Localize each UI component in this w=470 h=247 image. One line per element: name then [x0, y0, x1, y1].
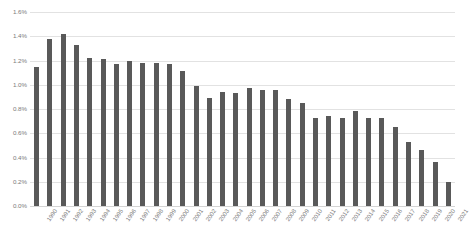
bar [220, 92, 225, 206]
bar [180, 71, 185, 206]
bar [353, 111, 358, 206]
bar [61, 34, 66, 206]
bar [247, 88, 252, 206]
bar [379, 118, 384, 207]
bar [340, 118, 345, 207]
x-axis-tick-label: 1996 [125, 208, 138, 222]
x-axis-tick-label: 1999 [165, 208, 178, 222]
y-axis-tick-label: 1.6% [0, 9, 27, 15]
x-axis-tick-label: 1990 [45, 208, 58, 222]
bar [366, 118, 371, 207]
bar [114, 64, 119, 206]
bar [74, 45, 79, 206]
x-axis-tick-label: 2017 [404, 208, 417, 222]
x-axis-tick-label: 2008 [284, 208, 297, 222]
x-axis-tick-label: 2012 [338, 208, 351, 222]
x-axis-tick-label: 2011 [324, 208, 336, 222]
bar [140, 63, 145, 206]
x-axis-tick-label: 1998 [152, 208, 165, 222]
y-axis-tick-label: 0.0% [0, 203, 27, 209]
x-axis-tick-label: 2015 [377, 208, 390, 222]
bar [167, 64, 172, 206]
x-axis-tick-label: 2005 [245, 208, 258, 222]
y-axis-tick-label: 0.6% [0, 130, 27, 136]
x-axis-tick-label: 1994 [98, 208, 111, 222]
x-axis-tick-label: 2000 [178, 208, 191, 222]
bar [326, 116, 331, 206]
y-axis-tick-label: 0.8% [0, 106, 27, 112]
x-axis-tick-label: 1993 [85, 208, 98, 222]
x-axis-tick-labels: 1990199119921993199419951996199719981999… [30, 208, 455, 247]
bar [446, 182, 451, 206]
x-axis-tick-label: 2020 [444, 208, 457, 222]
x-axis-tick-label: 2004 [231, 208, 244, 222]
x-axis-tick-label: 2016 [391, 208, 404, 222]
bar [300, 103, 305, 206]
bar [419, 150, 424, 206]
bar [393, 127, 398, 206]
bar [87, 58, 92, 206]
bar [260, 90, 265, 206]
x-axis-tick-label: 2010 [311, 208, 324, 222]
x-axis-tick-label: 2001 [191, 208, 204, 222]
bar [233, 93, 238, 206]
bar [286, 99, 291, 206]
y-axis-tick-label: 1.2% [0, 57, 27, 63]
y-axis-tick-label: 1.0% [0, 82, 27, 88]
x-axis-tick-label: 2021 [457, 208, 470, 222]
bar [47, 39, 52, 206]
bar [127, 61, 132, 207]
x-axis-tick-label: 2007 [271, 208, 284, 222]
y-axis-tick-label: 0.2% [0, 179, 27, 185]
bar [207, 98, 212, 206]
bar [313, 118, 318, 207]
bar [433, 162, 438, 206]
bar [194, 86, 199, 206]
bar [406, 142, 411, 206]
x-axis-tick-label: 1992 [72, 208, 85, 222]
bar [273, 90, 278, 206]
x-axis-tick-label: 2003 [218, 208, 231, 222]
bar [101, 59, 106, 206]
x-axis-tick-label: 1991 [59, 208, 72, 222]
gridline [30, 206, 455, 207]
bar [34, 67, 39, 206]
x-axis-tick-label: 2018 [417, 208, 430, 222]
y-axis-tick-label: 1.4% [0, 33, 27, 39]
x-axis-tick-label: 2014 [364, 208, 377, 222]
bar-series [30, 12, 455, 206]
x-axis-tick-label: 1997 [138, 208, 151, 222]
x-axis-tick-label: 2006 [258, 208, 271, 222]
x-axis-tick-label: 2009 [298, 208, 311, 222]
x-axis-tick-label: 2019 [430, 208, 443, 222]
bar [154, 63, 159, 206]
x-axis-tick-label: 1995 [112, 208, 125, 222]
x-axis-tick-label: 2002 [205, 208, 218, 222]
x-axis-tick-label: 2013 [351, 208, 364, 222]
y-axis-tick-label: 0.4% [0, 154, 27, 160]
